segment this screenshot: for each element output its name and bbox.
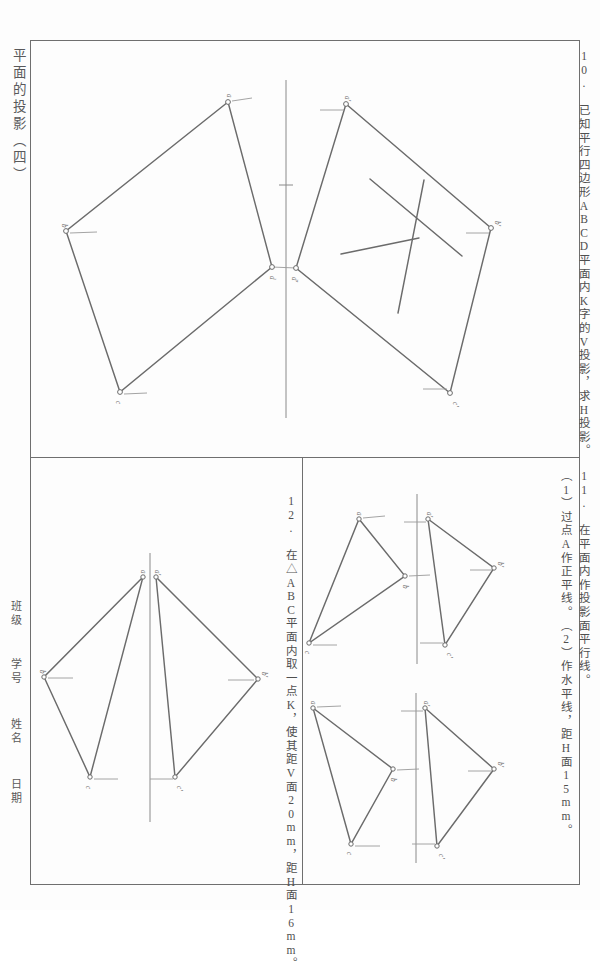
page-title: 平面的投影（四）: [8, 48, 28, 184]
problem-12-statement: 12. 在△ABC平面内取一点K，使其距V面20mm，距H面16mm。: [283, 495, 299, 965]
field-label-date: 日期: [8, 778, 24, 805]
frame-divider-vertical: [302, 457, 303, 885]
frame-divider-horizontal: [30, 457, 580, 458]
problem-11-sub1: （1）过点A作正平线。: [560, 470, 572, 620]
problem-11-sub2: （2）作水平线，距H面15mm。: [560, 620, 572, 838]
problem-11-subitems: （1）过点A作正平线。（2）作水平线，距H面15mm。: [558, 470, 574, 837]
field-label-student-name: 姓名: [8, 718, 24, 745]
problem-11-statement: 11. 在平面内作投影面平行线。: [576, 470, 592, 688]
problem-10-statement: 10. 已知平行四边形ABCD平面内K字的V投影，求H投影。: [576, 50, 592, 458]
field-label-student-number: 学号: [8, 658, 24, 685]
drawing-frame-outer: [30, 40, 580, 885]
field-label-class: 班级: [8, 600, 24, 627]
